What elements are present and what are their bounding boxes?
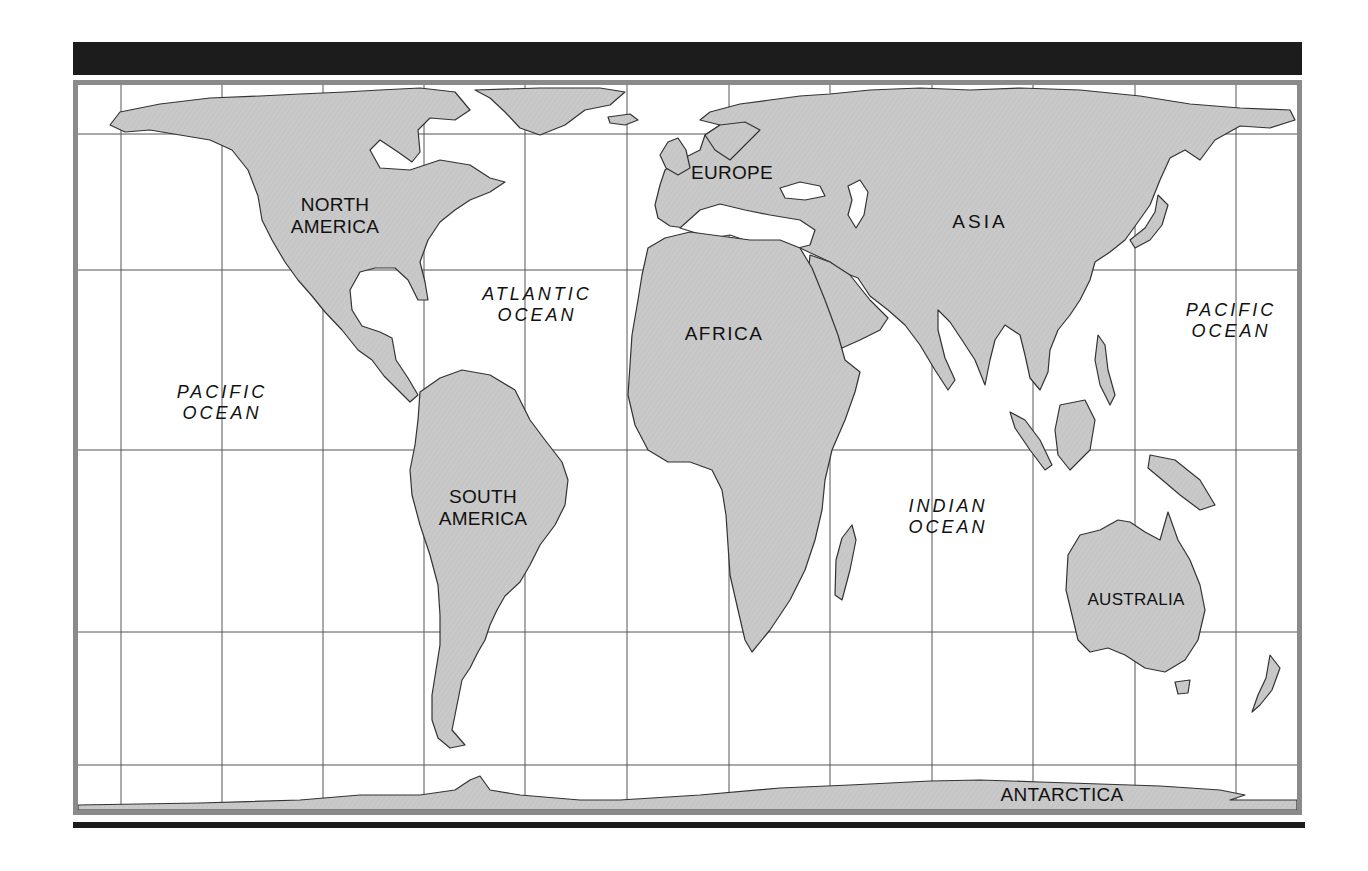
world-map bbox=[78, 85, 1297, 810]
north-america-shape bbox=[110, 88, 505, 402]
label-line: NORTH bbox=[291, 194, 380, 216]
philippines-shape bbox=[1095, 335, 1115, 405]
label-line: OCEAN bbox=[1186, 321, 1277, 342]
ocean-label-indian: INDIAN OCEAN bbox=[908, 496, 987, 537]
world-map-frame bbox=[73, 80, 1302, 815]
top-title-bar bbox=[73, 42, 1302, 75]
label-line: INDIAN bbox=[908, 496, 987, 517]
label-line: ATLANTIC bbox=[482, 284, 592, 305]
continent-label-europe: EUROPE bbox=[691, 162, 773, 184]
label-line: AUSTRALIA bbox=[1087, 590, 1184, 610]
label-line: ANTARCTICA bbox=[1001, 784, 1124, 806]
continent-label-antarctica: ANTARCTICA bbox=[1001, 784, 1124, 806]
label-line: AMERICA bbox=[439, 508, 528, 530]
borneo-shape bbox=[1055, 400, 1095, 470]
label-line: OCEAN bbox=[177, 403, 268, 424]
continent-label-north-america: NORTH AMERICA bbox=[291, 194, 380, 238]
label-line: AMERICA bbox=[291, 216, 380, 238]
continent-label-australia: AUSTRALIA bbox=[1087, 590, 1184, 610]
british-isles-shape bbox=[660, 138, 690, 175]
ocean-label-pacific-east: PACIFIC OCEAN bbox=[1186, 300, 1277, 341]
label-line: PACIFIC bbox=[177, 382, 268, 403]
tasmania-shape bbox=[1175, 680, 1190, 694]
bottom-rule bbox=[73, 822, 1305, 828]
ocean-label-pacific-west: PACIFIC OCEAN bbox=[177, 382, 268, 423]
label-line: AFRICA bbox=[685, 323, 764, 345]
south-america-shape bbox=[410, 370, 568, 748]
label-line: ASIA bbox=[952, 211, 1007, 233]
label-line: SOUTH bbox=[439, 486, 528, 508]
continent-label-asia: ASIA bbox=[952, 211, 1007, 233]
land-masses bbox=[78, 88, 1297, 810]
sumatra-shape bbox=[1010, 412, 1052, 470]
label-line: PACIFIC bbox=[1186, 300, 1277, 321]
greenland-shape bbox=[475, 88, 625, 135]
new-guinea-shape bbox=[1148, 455, 1215, 510]
continent-label-africa: AFRICA bbox=[685, 323, 764, 345]
label-line: OCEAN bbox=[908, 517, 987, 538]
continent-label-south-america: SOUTH AMERICA bbox=[439, 486, 528, 530]
label-line: EUROPE bbox=[691, 162, 773, 184]
new-zealand-shape bbox=[1252, 655, 1280, 712]
label-line: OCEAN bbox=[482, 305, 592, 326]
iceland-shape bbox=[608, 114, 638, 125]
madagascar-shape bbox=[835, 525, 856, 600]
ocean-label-atlantic: ATLANTIC OCEAN bbox=[482, 284, 592, 325]
